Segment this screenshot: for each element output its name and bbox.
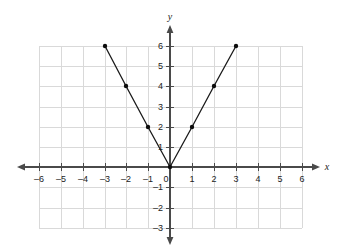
x-tick-label-neg2: –2	[121, 174, 131, 184]
x-tick-label-5: 5	[277, 174, 282, 184]
coordinate-graph-svg: –6 –5 –4 –3 –2 –1 0 1 2 3 4 5 6 6 5 4 3 …	[0, 0, 347, 247]
x-tick-label-3: 3	[233, 174, 238, 184]
y-tick-label-2: 2	[158, 122, 163, 132]
x-tick-label-neg6: –6	[34, 174, 44, 184]
x-tick-label-1: 1	[189, 174, 194, 184]
x-tick-label-4: 4	[255, 174, 260, 184]
x-tick-label-zero: 0	[163, 174, 168, 184]
y-tick-label-3: 3	[158, 102, 163, 112]
y-tick-label-5: 5	[158, 61, 163, 71]
data-point-neg1-2	[146, 125, 150, 129]
data-point-2-4	[212, 84, 216, 88]
x-tick-label-neg4: –4	[78, 174, 88, 184]
data-point-1-2	[190, 125, 194, 129]
data-point-neg2-4	[124, 84, 128, 88]
coordinate-graph-figure: –6 –5 –4 –3 –2 –1 0 1 2 3 4 5 6 6 5 4 3 …	[0, 0, 347, 247]
data-point-neg3-6	[103, 44, 107, 48]
x-tick-label-6: 6	[299, 174, 304, 184]
x-axis-label: x	[324, 161, 330, 172]
y-tick-label-6: 6	[158, 41, 163, 51]
y-tick-label-neg3: –3	[153, 223, 163, 233]
y-tick-label-4: 4	[158, 81, 163, 91]
y-tick-label-neg1: –1	[153, 182, 163, 192]
figure-background	[0, 0, 347, 247]
y-tick-label-neg2: –2	[153, 203, 163, 213]
x-tick-label-neg3: –3	[100, 174, 110, 184]
data-point-3-6	[234, 44, 238, 48]
x-tick-label-neg5: –5	[56, 174, 66, 184]
y-axis-label: y	[167, 11, 173, 22]
data-point-0-0	[168, 165, 172, 169]
x-tick-label-neg1: –1	[143, 174, 153, 184]
x-tick-label-2: 2	[211, 174, 216, 184]
